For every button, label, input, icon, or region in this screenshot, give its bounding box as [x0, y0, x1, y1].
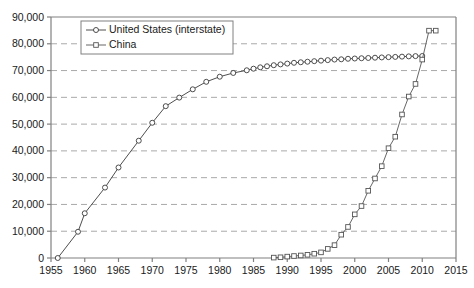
y-tick-label: 0: [38, 252, 44, 264]
data-point-marker: [271, 255, 276, 260]
data-point-marker: [386, 146, 391, 151]
data-point-marker: [103, 185, 108, 190]
data-point-marker: [204, 79, 209, 84]
data-point-marker: [332, 243, 337, 248]
data-point-marker: [352, 56, 357, 61]
data-point-marker: [190, 87, 195, 92]
data-point-marker: [136, 138, 141, 143]
y-tick-label: 10,000: [12, 225, 44, 237]
x-tick-label: 1990: [276, 264, 300, 276]
data-point-marker: [319, 58, 324, 63]
legend-marker: [94, 43, 99, 48]
data-point-marker: [150, 120, 155, 125]
data-point-marker: [298, 60, 303, 65]
data-point-marker: [352, 212, 357, 217]
data-point-marker: [76, 229, 81, 234]
data-point-marker: [285, 254, 290, 259]
data-point-marker: [427, 28, 432, 33]
y-tick-label: 30,000: [12, 171, 44, 183]
data-point-marker: [400, 112, 405, 117]
data-point-marker: [82, 211, 87, 216]
data-point-marker: [386, 55, 391, 60]
x-tick-label: 1985: [242, 264, 266, 276]
data-point-marker: [298, 253, 303, 258]
data-point-marker: [244, 68, 249, 73]
data-point-marker: [406, 94, 411, 99]
data-point-marker: [332, 57, 337, 62]
x-tick-label: 2010: [411, 264, 435, 276]
y-tick-label: 90,000: [12, 11, 44, 23]
data-point-marker: [339, 57, 344, 62]
data-point-marker: [278, 255, 283, 260]
chart-container: 010,00020,00030,00040,00050,00060,00070,…: [0, 0, 474, 288]
data-point-marker: [393, 54, 398, 59]
data-point-marker: [325, 58, 330, 63]
data-point-marker: [285, 61, 290, 66]
data-point-marker: [359, 204, 364, 209]
data-point-marker: [312, 251, 317, 256]
x-tick-label: 1975: [174, 264, 198, 276]
data-point-marker: [379, 55, 384, 60]
data-point-marker: [271, 63, 276, 68]
data-point-marker: [231, 70, 236, 75]
data-point-marker: [400, 54, 405, 59]
y-tick-label: 70,000: [12, 64, 44, 76]
data-point-marker: [433, 28, 438, 33]
data-point-marker: [366, 55, 371, 60]
data-point-marker: [406, 54, 411, 59]
data-point-marker: [373, 176, 378, 181]
x-tick-label: 1955: [39, 264, 63, 276]
data-point-marker: [217, 74, 222, 79]
data-point-marker: [116, 165, 121, 170]
x-tick-label: 1980: [208, 264, 232, 276]
chart-background: [0, 0, 474, 288]
x-tick-label: 1965: [107, 264, 131, 276]
y-tick-label: 80,000: [12, 37, 44, 49]
data-point-marker: [251, 66, 256, 71]
data-point-marker: [359, 56, 364, 61]
data-point-marker: [346, 225, 351, 230]
data-point-marker: [420, 57, 425, 62]
line-chart: 010,00020,00030,00040,00050,00060,00070,…: [0, 0, 474, 288]
data-point-marker: [325, 247, 330, 252]
data-point-marker: [413, 54, 418, 59]
data-point-marker: [319, 250, 324, 255]
legend[interactable]: United States (interstate)China: [81, 21, 233, 54]
data-point-marker: [292, 254, 297, 259]
data-point-marker: [265, 64, 270, 69]
data-point-marker: [393, 134, 398, 139]
x-tick-label: 1995: [309, 264, 333, 276]
data-point-marker: [278, 62, 283, 67]
y-tick-label: 60,000: [12, 91, 44, 103]
x-tick-label: 2015: [444, 264, 468, 276]
data-point-marker: [379, 164, 384, 169]
legend-marker: [94, 28, 99, 33]
y-tick-label: 40,000: [12, 144, 44, 156]
x-tick-label: 2000: [343, 264, 367, 276]
data-point-marker: [413, 82, 418, 87]
data-point-marker: [292, 60, 297, 65]
data-point-marker: [305, 252, 310, 257]
x-tick-label: 1960: [73, 264, 97, 276]
data-point-marker: [366, 188, 371, 193]
data-point-marker: [177, 95, 182, 100]
y-tick-label: 50,000: [12, 118, 44, 130]
data-point-marker: [55, 256, 60, 261]
data-point-marker: [305, 59, 310, 64]
x-tick-label: 2005: [377, 264, 401, 276]
data-point-marker: [339, 232, 344, 237]
data-point-marker: [163, 104, 168, 109]
y-tick-label: 20,000: [12, 198, 44, 210]
legend-label: China: [109, 38, 137, 50]
data-point-marker: [373, 55, 378, 60]
data-point-marker: [312, 59, 317, 64]
legend-label: United States (interstate): [109, 23, 225, 35]
data-point-marker: [346, 56, 351, 61]
data-point-marker: [258, 65, 263, 70]
x-tick-label: 1970: [141, 264, 165, 276]
